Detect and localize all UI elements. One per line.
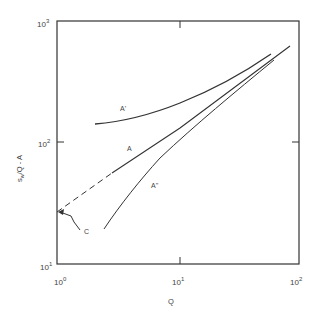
y-tick-label-100: 102 [38, 138, 51, 149]
curve-a-extrapolated [57, 173, 112, 212]
x-axis-title: Q [168, 297, 174, 306]
y-axis-title: sw/Q - A [15, 155, 25, 182]
label-a-prime: A' [120, 105, 126, 112]
label-a: A [127, 145, 132, 152]
arrow-head-icon [58, 209, 64, 215]
x-tick-label-1: 100 [54, 276, 67, 287]
curve-a [112, 46, 290, 173]
x-tick-label-10: 101 [172, 276, 185, 287]
label-c: C [84, 228, 89, 235]
y-tick-label-10: 101 [40, 261, 53, 272]
y-tick-label-1000: 103 [37, 18, 50, 29]
log-log-chart: 103 102 101 100 101 102 Q sw/Q - A A' A … [0, 0, 315, 319]
label-a-double-prime: A'' [151, 182, 158, 189]
x-tick-label-100: 102 [290, 276, 303, 287]
curve-a-prime [95, 54, 271, 124]
plot-frame [57, 21, 299, 264]
